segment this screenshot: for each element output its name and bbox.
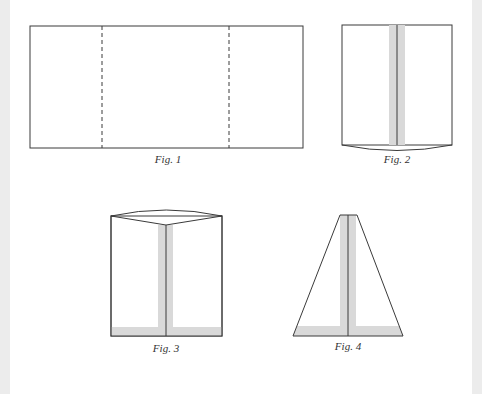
diagram-canvas: Fig. 1 Fig. 2 Fig. 3 Fig. 4 — [0, 0, 482, 394]
fig4-caption: Fig. 4 — [334, 340, 362, 352]
fig3-caption: Fig. 3 — [152, 342, 180, 354]
figure-3: Fig. 3 — [111, 210, 222, 354]
fig1-outline — [30, 26, 303, 148]
fig1-caption: Fig. 1 — [154, 153, 181, 165]
figure-2: Fig. 2 — [342, 25, 452, 165]
figure-4: Fig. 4 — [293, 215, 403, 352]
fig2-curved-bottom — [342, 145, 452, 151]
figure-1: Fig. 1 — [30, 26, 303, 165]
fig2-caption: Fig. 2 — [383, 153, 411, 165]
